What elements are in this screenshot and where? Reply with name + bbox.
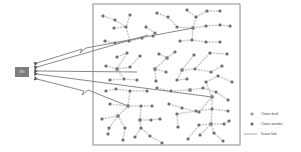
- cluster-member-node: [113, 18, 116, 21]
- legend-cluster-member-icon: [250, 122, 253, 125]
- sensor-link: [110, 79, 124, 80]
- cluster-member-node: [114, 87, 117, 90]
- cluster-member-node: [133, 135, 136, 138]
- legend-cluster-member-label: Cluster member: [261, 122, 284, 126]
- cluster-member-node: [220, 64, 223, 67]
- sensor-link: [195, 69, 211, 72]
- cluster-member-node: [178, 39, 181, 42]
- sensor-link: [126, 27, 130, 41]
- cluster-member-node: [218, 23, 221, 26]
- cluster-member-node: [226, 109, 229, 112]
- sensor-link: [115, 20, 126, 27]
- sensor-link: [128, 91, 130, 106]
- sensor-link: [210, 53, 227, 54]
- cluster-member-node: [157, 52, 160, 55]
- cluster-member-node: [169, 89, 172, 92]
- cluster-member-node: [204, 80, 207, 83]
- link-to-base-station: [37, 79, 128, 106]
- cluster-member-node: [125, 51, 128, 54]
- link-to-base-station: [37, 28, 193, 63]
- sensor-link: [196, 11, 207, 17]
- cluster-member-node: [212, 131, 215, 134]
- cluster-member-node: [160, 141, 163, 144]
- cluster-member-node: [193, 67, 196, 70]
- cluster-member-node: [185, 8, 188, 11]
- cluster-member-node: [228, 24, 231, 27]
- sensor-link: [206, 76, 218, 82]
- sensor-link: [168, 17, 177, 27]
- cluster-member-node: [214, 90, 217, 93]
- cluster-member-node: [124, 25, 127, 28]
- network-diagram: BS Cluster head Cluster member Sensor li…: [0, 0, 301, 152]
- cluster-member-node: [204, 24, 207, 27]
- cluster-member-node: [192, 53, 195, 56]
- cluster-head-node: [126, 104, 130, 108]
- cluster-member-node: [226, 98, 229, 101]
- cluster-member-node: [227, 119, 230, 122]
- cluster-head-to-bs-links: [37, 28, 212, 106]
- legend: Cluster head Cluster member Sensor link: [244, 112, 284, 136]
- sensor-link: [206, 25, 220, 26]
- sensor-link: [212, 109, 228, 111]
- cluster-member-node: [149, 118, 152, 121]
- cluster-member-node: [144, 25, 147, 28]
- cluster-member-node: [210, 107, 213, 110]
- cluster-member-node: [218, 9, 221, 12]
- cluster-member-node: [158, 117, 161, 120]
- cluster-head-node: [115, 67, 119, 71]
- cluster-head-node: [138, 118, 142, 122]
- cluster-member-node: [153, 31, 156, 34]
- cluster-member-node: [115, 55, 118, 58]
- cluster-member-node: [185, 77, 188, 80]
- cluster-member-node: [123, 126, 126, 129]
- cluster-member-node: [127, 39, 130, 42]
- cluster-member-node: [204, 40, 207, 43]
- sensor-link: [200, 124, 211, 135]
- cluster-member-node: [154, 79, 157, 82]
- legend-cluster-head-label: Cluster head: [261, 112, 278, 116]
- cluster-member-node: [218, 40, 221, 43]
- sensor-link: [171, 90, 190, 91]
- cluster-member-node: [128, 89, 131, 92]
- cluster-member-node: [135, 78, 138, 81]
- sensor-link: [124, 79, 137, 80]
- cluster-head-node: [116, 114, 120, 118]
- cluster-member-node: [208, 51, 211, 54]
- cluster-member-node: [230, 80, 233, 83]
- sensor-link: [126, 15, 130, 27]
- cluster-member-node: [150, 104, 153, 107]
- cluster-member-node: [166, 15, 169, 18]
- sensor-link: [130, 56, 140, 67]
- link-to-base-station: [37, 71, 137, 72]
- sensor-link: [103, 16, 115, 20]
- sensor-link: [211, 66, 222, 72]
- sensor-link: [180, 40, 192, 41]
- cluster-member-node: [180, 106, 183, 109]
- sensor-link: [150, 136, 162, 143]
- sensor-link: [140, 106, 141, 120]
- cluster-member-node: [205, 9, 208, 12]
- cluster-head-node: [209, 122, 213, 126]
- cluster-member-node: [155, 86, 158, 89]
- sensor-link: [192, 40, 206, 42]
- cluster-member-node: [151, 34, 154, 37]
- cluster-member-node: [190, 38, 193, 41]
- cluster-member-node: [108, 78, 111, 81]
- cluster-member-node: [222, 122, 225, 125]
- sensor-link: [218, 76, 232, 82]
- cluster-member-node: [155, 11, 158, 14]
- sensor-link: [177, 27, 193, 28]
- cluster-member-node: [113, 41, 116, 44]
- cluster-head-node: [153, 67, 157, 71]
- cluster-member-node: [216, 74, 219, 77]
- sensor-link: [177, 111, 196, 114]
- cluster-member-node: [194, 15, 197, 18]
- cluster-member-node: [197, 123, 200, 126]
- cluster-member-node: [173, 50, 176, 53]
- cluster-member-node: [225, 52, 228, 55]
- cluster-member-node: [139, 126, 142, 129]
- legend-sensor-link-label: Sensor link: [261, 132, 277, 136]
- legend-cluster-head-icon: [250, 112, 253, 115]
- sensor-link: [214, 133, 223, 141]
- cluster-member-node: [112, 26, 115, 29]
